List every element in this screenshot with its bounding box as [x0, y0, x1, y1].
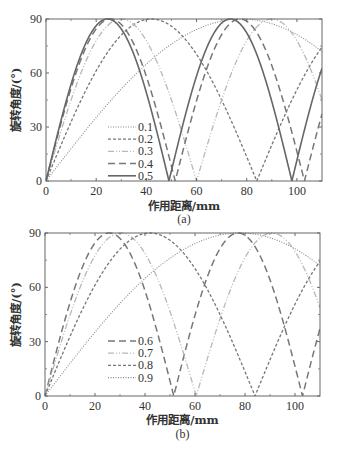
y-tick-label: 90 [29, 226, 41, 240]
x-tick-label: 80 [239, 399, 251, 413]
chart-panel-b: 0204060801000306090作用距离/mm旋转角度/(°)(b)0.6… [9, 226, 320, 441]
legend: 0.60.70.80.9 [108, 334, 153, 385]
y-tick-label: 60 [29, 280, 41, 294]
y-tick-label: 30 [30, 120, 42, 134]
x-tick-label: 60 [191, 184, 203, 198]
panel-caption: (b) [176, 427, 190, 441]
legend: 0.10.20.30.40.5 [108, 120, 153, 183]
x-tick-label: 20 [89, 399, 101, 413]
x-tick-label: 60 [189, 399, 201, 413]
x-tick-label: 100 [286, 399, 304, 413]
x-tick-label: 80 [241, 184, 253, 198]
y-axis-title: 旋转角度/(°) [9, 68, 23, 134]
y-axis-title: 旋转角度/(°) [9, 282, 23, 348]
x-tick-label: 0 [42, 399, 48, 413]
x-axis-title: 作用距离/mm [148, 199, 221, 213]
x-tick-label: 100 [288, 184, 306, 198]
y-tick-label: 90 [30, 12, 42, 26]
legend-label: 0.5 [138, 169, 153, 183]
y-tick-label: 0 [35, 389, 41, 403]
plot-area [46, 19, 322, 181]
chart-panel-a: 0204060801000306090作用距离/mm旋转角度/(°)(a)0.1… [9, 12, 322, 226]
figure: 0204060801000306090作用距离/mm旋转角度/(°)(a)0.1… [0, 0, 338, 455]
panel-caption: (a) [177, 212, 190, 226]
x-tick-label: 40 [139, 399, 151, 413]
x-tick-label: 40 [140, 184, 152, 198]
series-line-0-6 [45, 233, 320, 396]
x-tick-label: 0 [43, 184, 49, 198]
legend-label: 0.9 [138, 371, 153, 385]
x-tick-label: 20 [90, 184, 102, 198]
y-tick-label: 60 [30, 66, 42, 80]
y-tick-label: 30 [29, 335, 41, 349]
series-line-0-4 [46, 19, 322, 181]
y-tick-label: 0 [36, 174, 42, 188]
plot-area [45, 233, 320, 396]
x-axis-title: 作用距离/mm [146, 413, 219, 427]
